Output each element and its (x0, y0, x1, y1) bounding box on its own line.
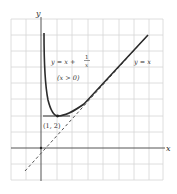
point-1-2 (56, 115, 59, 118)
curve-label-frac-num: 1 (85, 54, 89, 60)
graph-figure: y x y = x + 1 x (x > 0) y = x (1, 2) (0, 0, 177, 194)
domain-note: (x > 0) (57, 74, 80, 82)
y-axis-label: y (35, 9, 41, 18)
origin-point (40, 147, 42, 149)
point-label: (1, 2) (43, 122, 61, 130)
x-axis-label: x (166, 144, 171, 153)
asymptote-label: y = x (133, 58, 151, 66)
curve-label: y = x + (50, 58, 75, 66)
